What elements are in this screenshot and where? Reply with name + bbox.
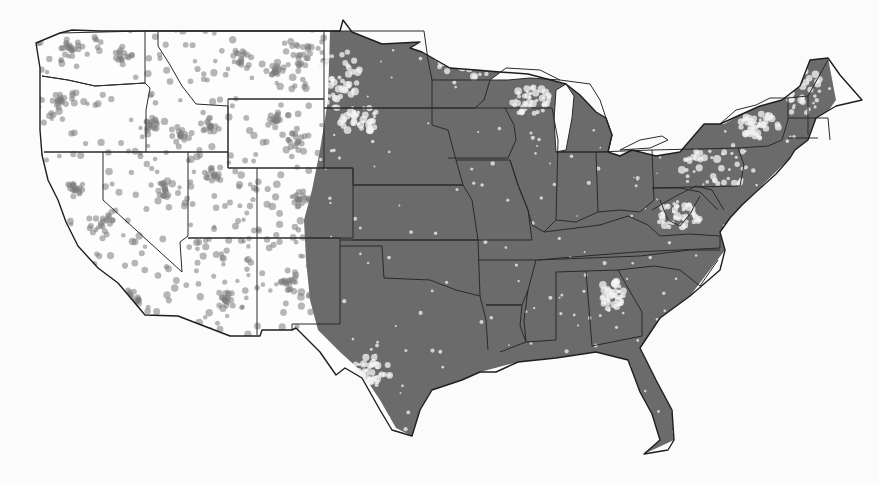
population-dot [201,127,207,133]
low-density-speck [587,181,591,185]
population-dot [263,68,269,74]
population-dot [68,130,74,136]
population-dot [285,278,291,284]
low-density-speck [477,131,479,133]
low-density-speck [524,102,528,106]
low-density-speck [718,165,725,172]
population-dot [63,101,69,107]
low-density-speck [682,208,686,212]
population-dot [255,178,262,185]
population-dot [301,254,305,258]
population-dot [167,78,174,85]
population-dot [193,153,200,160]
population-dot [195,246,200,251]
low-density-speck [751,168,756,173]
low-density-speck [532,111,537,116]
population-dot [177,132,183,138]
population-dot [296,227,302,233]
low-density-speck [792,106,795,109]
low-density-speck [815,98,819,102]
low-density-speck [687,202,692,207]
low-density-speck [401,384,404,387]
population-dot [107,252,114,259]
low-density-speck [549,163,551,165]
low-density-speck [698,150,704,156]
low-density-speck [662,292,665,295]
low-density-speck [713,155,721,163]
low-density-speck [404,427,408,431]
low-density-speck [812,70,820,78]
population-dot [173,277,180,284]
low-density-speck [727,177,730,180]
population-dot [178,98,183,103]
low-density-speck [659,156,661,158]
population-dot [246,273,250,277]
low-density-speck [375,354,377,356]
low-density-speck [338,156,341,159]
population-dot [154,197,161,204]
population-dot [100,235,106,241]
low-density-speck [615,326,618,329]
low-density-speck [747,127,754,134]
low-density-speck [371,140,375,144]
population-dot [290,234,297,241]
low-density-speck [376,375,379,378]
population-dot [216,302,222,308]
population-dot [238,238,244,244]
population-dot [70,90,76,96]
population-dot [283,301,289,307]
population-dot [64,36,70,42]
low-density-speck [593,129,596,132]
population-dot [250,76,255,81]
population-dot [192,170,197,175]
population-dot [117,55,123,61]
low-density-speck [721,153,724,156]
low-density-speck [484,72,488,76]
population-dot [165,192,171,198]
low-density-speck [701,154,708,161]
low-density-speck [678,166,686,174]
low-density-speck [533,307,535,309]
population-dot [95,44,101,50]
population-dot [245,256,252,263]
population-dot [298,303,305,310]
low-density-speck [351,88,359,96]
low-density-speck [607,309,610,312]
low-density-speck [498,127,502,131]
population-dot [208,143,215,150]
population-dot [159,236,166,243]
low-density-speck [620,288,627,295]
population-dot [155,272,162,279]
population-dot [206,309,213,316]
population-dot [251,185,257,191]
low-density-speck [375,383,379,387]
low-density-speck [542,89,549,96]
low-density-speck [529,85,534,90]
low-density-speck [398,204,400,206]
population-dot [196,281,202,287]
population-dot [234,50,240,56]
population-dot [140,134,145,139]
low-density-speck [676,200,679,203]
population-dot [277,171,284,178]
population-dot [181,203,188,210]
population-dot [232,169,238,175]
population-dot [190,201,196,207]
population-dot [250,132,257,139]
population-dot [213,205,219,211]
low-density-speck [427,122,429,124]
population-dot [227,199,233,205]
low-density-speck [373,115,376,118]
low-density-speck [559,297,561,299]
low-density-speck [353,217,357,221]
population-dot [88,223,94,229]
population-dot [289,154,295,160]
low-density-speck [338,75,342,79]
population-dot [316,46,321,51]
population-dot [217,177,223,183]
low-density-speck [610,289,614,293]
population-dot [183,42,189,48]
population-dot [58,45,64,51]
population-dot [289,43,295,49]
low-density-speck [386,372,393,379]
